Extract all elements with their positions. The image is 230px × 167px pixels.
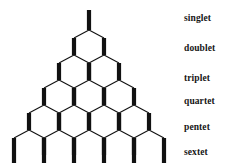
split-diagonal-right: [89, 80, 104, 88]
label-triplet: triplet: [184, 73, 210, 83]
label-singlet: singlet: [184, 13, 211, 23]
split-diagonal-left: [89, 55, 104, 63]
split-diagonal-right: [89, 130, 104, 138]
splitting-tree: [0, 0, 180, 167]
split-diagonal-left: [59, 55, 74, 63]
split-diagonal-left: [104, 130, 119, 138]
split-diagonal-left: [59, 105, 74, 113]
split-diagonal-left: [44, 130, 59, 138]
split-diagonal-right: [104, 55, 119, 63]
split-diagonal-left: [14, 130, 29, 138]
split-diagonal-right: [74, 105, 89, 113]
split-diagonal-right: [119, 130, 134, 138]
tree-geometry: [14, 10, 164, 163]
multiplicity-labels: singlet doublet triplet quartet pentet s…: [180, 0, 230, 167]
split-diagonal-left: [89, 105, 104, 113]
split-diagonal-left: [119, 105, 134, 113]
split-diagonal-right: [149, 130, 164, 138]
label-sextet: sextet: [184, 147, 208, 157]
split-diagonal-left: [74, 80, 89, 88]
split-diagonal-right: [104, 105, 119, 113]
splitting-tree-svg: [0, 0, 180, 167]
label-pentet: pentet: [184, 122, 210, 132]
split-diagonal-right: [89, 30, 104, 38]
label-quartet: quartet: [184, 96, 215, 106]
split-diagonal-right: [59, 130, 74, 138]
split-diagonal-right: [29, 130, 44, 138]
split-diagonal-right: [44, 105, 59, 113]
split-diagonal-left: [29, 105, 44, 113]
split-diagonal-right: [59, 80, 74, 88]
split-diagonal-left: [134, 130, 149, 138]
split-diagonal-right: [119, 80, 134, 88]
label-doublet: doublet: [184, 43, 215, 53]
split-diagonal-left: [104, 80, 119, 88]
figure-root: singlet doublet triplet quartet pentet s…: [0, 0, 230, 167]
split-diagonal-left: [74, 30, 89, 38]
split-diagonal-right: [74, 55, 89, 63]
split-diagonal-right: [134, 105, 149, 113]
split-diagonal-left: [74, 130, 89, 138]
split-diagonal-left: [44, 80, 59, 88]
